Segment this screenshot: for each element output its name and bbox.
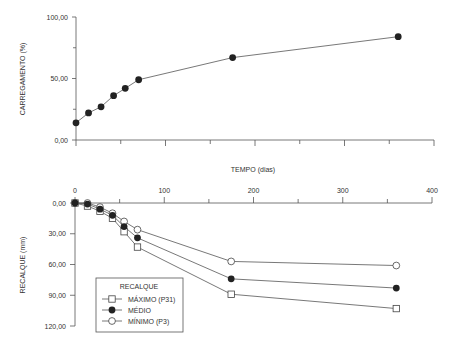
data-point-medio (134, 234, 141, 241)
load-data-point (122, 85, 129, 92)
data-point-medio (121, 223, 128, 230)
data-point-maximo (134, 244, 140, 250)
bottom-y-tick-label: 30,00 (48, 230, 66, 237)
bottom-y-tick-label: 120,00 (45, 323, 67, 330)
load-data-point (85, 110, 92, 117)
load-data-point (98, 103, 105, 110)
data-point-medio (393, 285, 400, 292)
settlement-load-figure: 0,0050,00100,00 CARREGAMENTO (%) TEMPO (… (0, 0, 451, 352)
load-series-line (76, 37, 398, 123)
data-point-medio (72, 200, 79, 207)
data-point-minimo (393, 262, 400, 269)
legend-marker-medio (109, 307, 116, 314)
bottom-x-tick-label: 200 (248, 187, 260, 194)
bottom-x-tick-label: 0 (73, 187, 77, 194)
data-point-minimo (228, 258, 235, 265)
data-point-medio (228, 275, 235, 282)
data-point-medio (97, 206, 104, 213)
bottom-x-axis-title: TEMPO (dias) (231, 166, 275, 174)
load-data-point (395, 33, 402, 40)
bottom-x-tick-label: 400 (426, 187, 438, 194)
legend-label-maximo: MÁXIMO (P31) (128, 295, 175, 304)
data-point-maximo (393, 305, 399, 311)
load-chart: 0,0050,00100,00 CARREGAMENTO (%) (19, 14, 434, 147)
bottom-x-tick-label: 300 (337, 187, 349, 194)
legend-label-minimo: MÍNIMO (P3) (128, 317, 169, 326)
top-y-axis-title: CARREGAMENTO (%) (19, 43, 27, 116)
data-point-maximo (228, 291, 234, 297)
data-point-medio (109, 212, 116, 219)
bottom-y-axis-title: RECALQUE (mm) (19, 237, 27, 294)
legend-label-medio: MÉDIO (128, 306, 152, 314)
data-point-medio (84, 201, 91, 208)
series-line-medio (75, 203, 396, 288)
bottom-x-tick-label: 100 (158, 187, 170, 194)
legend-title: RECALQUE (120, 283, 159, 291)
top-y-tick-label: 100,00 (47, 14, 69, 21)
load-data-point (73, 119, 80, 126)
load-data-point (229, 54, 236, 61)
bottom-y-tick-label: 0,00 (52, 200, 66, 207)
settlement-chart: TEMPO (dias) 0100200300400 0,0030,0060,0… (19, 166, 438, 332)
bottom-y-tick-label: 90,00 (48, 292, 66, 299)
legend-marker-maximo (109, 296, 115, 302)
legend-marker-minimo (109, 318, 116, 325)
load-data-point (135, 76, 142, 83)
load-data-point (110, 92, 117, 99)
data-point-minimo (134, 226, 141, 233)
legend: RECALQUE MÁXIMO (P31)MÉDIOMÍNIMO (P3) (96, 278, 183, 332)
top-y-tick-label: 0,00 (54, 137, 68, 144)
bottom-y-tick-label: 60,00 (48, 261, 66, 268)
top-y-tick-label: 50,00 (50, 75, 68, 82)
